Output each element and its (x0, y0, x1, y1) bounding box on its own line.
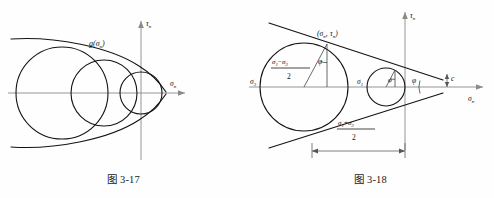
figure-page: g(σn) σn τn 图 3-17 (0, 0, 494, 198)
figure-3-17-canvas: g(σn) σn τn (0, 0, 247, 170)
center-fraction-label: σ1+σ3 2 (337, 119, 375, 142)
x-axis-label-left: σn (170, 79, 177, 89)
center-dim-arrow-left (312, 149, 318, 154)
phi-label-apex: φ (412, 76, 416, 85)
cohesion-arrow-bottom (445, 82, 449, 87)
radius-fraction-label: σ1−σ3 2 (271, 58, 310, 81)
y-axis-label-left: τn (146, 19, 152, 29)
figure-3-18: (σn,τn) σ1−σ3 2 σ1+σ3 2 σ3 σ1 φ φ φ (247, 0, 494, 198)
y-axis-label-right: τn (410, 11, 416, 21)
center-fraction-denominator: 2 (352, 133, 356, 142)
phi-label-major: φ (318, 57, 322, 66)
stress-point-label: (σn,τn) (317, 29, 338, 39)
envelope-function-label: g(σn) (89, 39, 105, 49)
y-axis-arrowhead (138, 21, 144, 28)
center-dim-arrow-right (399, 149, 405, 154)
radius-fraction-numerator: σ1−σ3 (272, 58, 288, 67)
x-axis-arrowhead (178, 90, 185, 96)
center-fraction-numerator: σ1+σ3 (338, 119, 354, 128)
figure-left-caption: 图 3-17 (0, 171, 247, 186)
sigma3-label: σ3 (250, 77, 257, 87)
cohesion-arrow-top (445, 74, 449, 79)
cohesion-marker (445, 74, 449, 87)
radius-fraction-denominator: 2 (287, 72, 291, 81)
radius-to-tangent-point (304, 44, 327, 87)
figure-right-caption: 图 3-18 (247, 171, 494, 186)
phi-label-minor: φ (388, 76, 392, 84)
center-dimension (312, 143, 405, 158)
envelope-lower-branch (11, 94, 166, 147)
figure-3-18-canvas: (σn,τn) σ1−σ3 2 σ1+σ3 2 σ3 σ1 φ φ φ (247, 0, 494, 170)
sigma1-label: σ1 (357, 77, 363, 87)
cohesion-label: c (451, 74, 455, 83)
x-axis-arrowhead (476, 84, 483, 90)
envelope-lower-line (269, 93, 443, 148)
radius-construction-major (304, 44, 327, 87)
x-axis-label-right: σn (468, 94, 475, 104)
envelope-upper-line (269, 23, 443, 80)
y-axis-arrowhead (402, 12, 408, 19)
figure-3-17: g(σn) σn τn 图 3-17 (0, 0, 247, 198)
